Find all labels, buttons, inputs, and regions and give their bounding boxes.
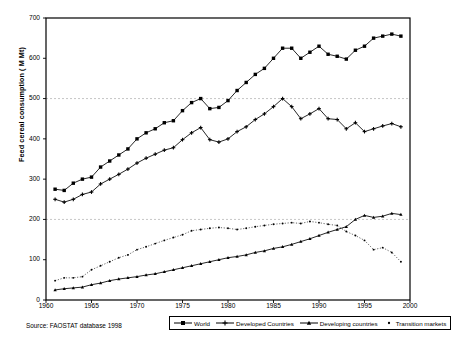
- source-note: Source: FAOSTAT database 1998: [26, 322, 122, 329]
- series-world: [53, 32, 402, 192]
- data-series-layer: [53, 32, 403, 291]
- series-developed-countries: [53, 97, 403, 204]
- axis-ticks: [43, 18, 410, 303]
- legend-item-transition-markets: Transition markets: [384, 319, 447, 327]
- legend-label: World: [194, 320, 210, 327]
- series-transition-markets: [54, 220, 402, 281]
- legend-marker-triangle-icon: [300, 319, 318, 327]
- legend-label: Transition markets: [396, 320, 447, 327]
- legend-item-world: World: [174, 319, 210, 327]
- legend-marker-plus-icon: [216, 319, 234, 327]
- legend-marker-square-icon: [174, 319, 192, 327]
- gridlines: [46, 99, 410, 220]
- legend-item-developed-countries: Developed Countries: [216, 319, 294, 327]
- legend-label: Developing countries: [320, 320, 378, 327]
- legend-item-developing-countries: Developing countries: [300, 319, 378, 327]
- series-developing-countries: [53, 212, 402, 292]
- legend-label: Developed Countries: [236, 320, 294, 327]
- chart-legend: WorldDeveloped CountriesDeveloping count…: [169, 316, 451, 330]
- legend-marker-dot-icon: [384, 319, 394, 327]
